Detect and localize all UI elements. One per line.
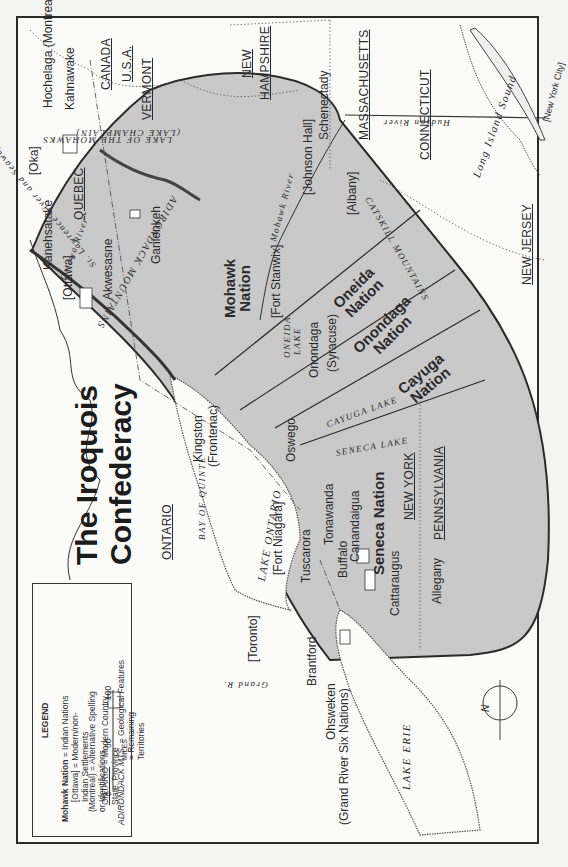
region-massachusetts: MASSACHUSETTS (357, 29, 371, 140)
region-ontario: ONTARIO (160, 504, 174, 560)
geo-bay-of-quinte: BAY OF QUINTE (197, 456, 207, 540)
nation-seneca: Seneca Nation (371, 472, 386, 575)
map-title: The Iroquois Confederacy (70, 383, 138, 565)
title-line-2: Confederacy (104, 383, 138, 565)
scale-unit: MILES (120, 739, 130, 760)
scale-tick-50: 50 (103, 739, 113, 748)
geo-oneida-lake-2: LAKE (292, 327, 302, 355)
region-new-jersey: NEW JERSEY (520, 204, 534, 285)
settlement-schenectady: Schenectady (318, 71, 331, 140)
geo-oneida-lake-1: ONEIDA (282, 316, 292, 358)
settlement-tonawanda: Tonawanda (323, 484, 336, 545)
region-nh-1: NEW (240, 49, 254, 78)
settlement-tuscarora: Tuscarora (300, 529, 313, 583)
compass-north-label: N (480, 705, 491, 712)
settlement-fort-stanwix: [Fort Stanwix] (270, 245, 283, 318)
settlement-oka: [Oka] (28, 146, 41, 175)
settlement-akwesasne: Akwesasne (102, 239, 115, 300)
region-canada: CANADA (99, 38, 113, 90)
settlement-allegany: Allegany (431, 558, 444, 604)
geo-grand-r: Grand R. (223, 680, 269, 690)
settlement-hochelaga: Hochelaga (Montreal) (42, 0, 55, 108)
settlement-toronto: [Toronto] (247, 615, 260, 662)
geo-lake-erie: LAKE ERIE (400, 723, 412, 790)
region-new-york: NEW YORK (402, 452, 416, 520)
region-nh-2: HAMPSHIRE (258, 26, 272, 100)
settlement-syracuse: (Syracuse) (326, 314, 339, 372)
settlement-frontenac: (Frontenac) (207, 405, 220, 467)
settlement-grand-river: (Grand River Six Nations) (338, 688, 351, 825)
scale-tick-0: 0 (103, 791, 113, 796)
settlement-albany: [Albany] (346, 172, 359, 215)
confederacy-territory (32, 73, 549, 660)
nation-mohawk: MohawkNation (222, 259, 252, 318)
region-pennsylvania: PENNSYLVANIA (432, 446, 446, 540)
region-vermont: VERMONT (140, 58, 154, 120)
geo-lake-champlain-2: (LAKE CHAMPLAIN) (75, 128, 180, 138)
settlement-johnson-hall: [Johnson Hall] (302, 119, 315, 195)
title-line-1: The Iroquois (70, 383, 104, 565)
settlement-oswego: Oswego (285, 418, 298, 462)
region-usa: U.S.A. (120, 46, 134, 82)
settlement-cattaraugus: Cattaraugus (389, 551, 402, 616)
settlement-kingston: Kingston (192, 415, 205, 462)
legend-heading: LEGEND (40, 703, 50, 738)
region-quebec: QUEBEC (72, 168, 86, 220)
region-connecticut: CONNECTICUT (418, 69, 432, 160)
settlement-onondaga: Onondaga (308, 322, 321, 378)
scale-tick-100: 100 (103, 686, 113, 700)
legend-item-nation: Mohawk Nation = Indian Nations (60, 696, 70, 822)
geo-hudson-river: Hudson River (382, 118, 450, 128)
settlement-kahnawake: Kahnawake (64, 47, 77, 110)
settlement-canandaigua: Canandaigua (349, 491, 362, 562)
settlement-brantford: Brantford (306, 637, 319, 686)
